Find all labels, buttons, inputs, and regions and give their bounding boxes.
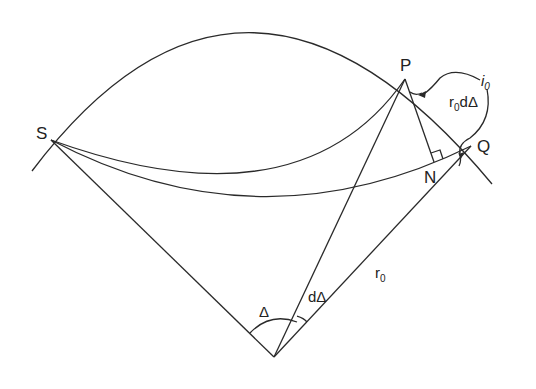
ray-geometry-diagram: S P Q N Δ dΔ r0 i0 r0dΔ <box>0 0 536 389</box>
label-p: P <box>400 56 411 75</box>
ray-path-sq <box>51 140 471 197</box>
label-delta: Δ <box>259 303 269 320</box>
label-d-delta: dΔ <box>308 288 326 305</box>
angle-d-delta-arc <box>297 316 307 322</box>
label-s: S <box>36 124 47 143</box>
surface-arc <box>32 33 492 184</box>
label-n: N <box>424 168 436 187</box>
angle-delta-arc <box>250 319 297 333</box>
i0-leader <box>424 72 480 94</box>
i0-arrowhead <box>418 91 426 98</box>
radius-op <box>274 79 405 357</box>
label-i0: i0 <box>481 72 490 92</box>
label-r0: r0 <box>375 264 386 284</box>
label-r0-d-delta: r0dΔ <box>449 93 478 113</box>
segment-pn <box>405 79 434 162</box>
radius-oq <box>274 146 471 357</box>
label-q: Q <box>477 137 490 156</box>
